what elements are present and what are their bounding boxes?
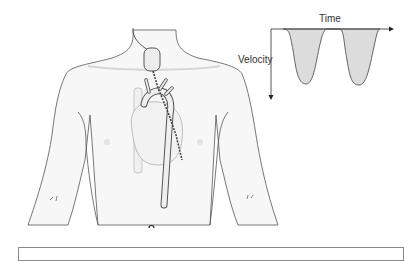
velocity-axis-arrow xyxy=(269,95,274,100)
velocity-time-inset xyxy=(269,27,395,101)
time-axis-arrow xyxy=(389,27,394,32)
navel xyxy=(149,226,154,228)
caption-box xyxy=(18,247,404,261)
waveform-area xyxy=(283,29,380,85)
velocity-axis-label: Velocity xyxy=(238,54,272,65)
heart xyxy=(131,102,182,165)
right-nipple xyxy=(197,139,203,145)
time-axis-label: Time xyxy=(319,13,341,24)
doppler-probe-head xyxy=(144,48,160,71)
left-nipple xyxy=(104,139,110,145)
